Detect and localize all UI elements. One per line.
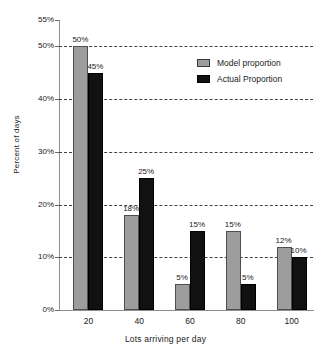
bar-value-label: 5% [231,273,265,282]
y-axis-tick-mark [55,20,59,21]
legend-swatch-actual [197,75,210,83]
legend-item[interactable]: Actual Proportion [197,72,282,85]
x-axis-tick-label: 20 [68,316,108,326]
bar-actual-40 [139,178,154,310]
y-axis-tick-label: 10% [26,253,54,261]
legend-item[interactable]: Model proportion [197,56,282,69]
chart-legend: Model proportionActual Proportion [197,56,282,88]
bar-group: 50%45% [73,20,103,310]
y-axis-tick-mark [55,310,59,311]
bar-model-100 [277,247,292,310]
bar-model-80 [226,231,241,310]
x-axis-tick-label: 60 [170,316,210,326]
bar-actual-80 [241,284,256,310]
y-axis-tick-mark [55,205,59,206]
x-axis-tick-label: 80 [221,316,261,326]
legend-label: Model proportion [217,58,281,68]
y-axis-line [59,20,60,311]
y-axis-tick-mark [55,46,59,47]
bar-value-label: 12% [267,236,301,245]
bar-value-label: 45% [78,62,112,71]
bar-actual-60 [190,231,205,310]
bar-actual-100 [292,257,307,310]
y-axis-tick-label: 30% [26,148,54,156]
x-axis-tick-label: 100 [272,316,312,326]
bar-value-label: 15% [216,220,250,229]
bar-value-label: 15% [180,220,214,229]
legend-label: Actual Proportion [217,74,282,84]
bar-chart: Percent of days Lots arriving per day 0%… [0,0,331,358]
bar-model-60 [175,284,190,310]
y-axis-tick-mark [55,152,59,153]
bar-model-20 [73,46,88,310]
bar-value-label: 50% [63,35,97,44]
bar-value-label: 10% [282,246,316,255]
x-axis-tick-label: 40 [119,316,159,326]
y-axis-tick-label: 20% [26,201,54,209]
y-axis-tick-label: 50% [26,42,54,50]
bar-model-40 [124,215,139,310]
x-axis-title: Lots arriving per day [0,334,331,344]
bar-group: 18%25% [124,20,154,310]
x-axis-line [59,310,314,311]
y-axis-tick-label: 40% [26,95,54,103]
y-axis-tick-label: 55% [26,16,54,24]
legend-swatch-model [197,59,210,67]
y-axis-title: Percent of days [12,97,21,193]
y-axis-tick-label: 0% [26,306,54,314]
y-axis-tick-mark [55,257,59,258]
y-axis-tick-mark [55,99,59,100]
bar-actual-20 [88,73,103,310]
bar-value-label: 25% [129,167,163,176]
